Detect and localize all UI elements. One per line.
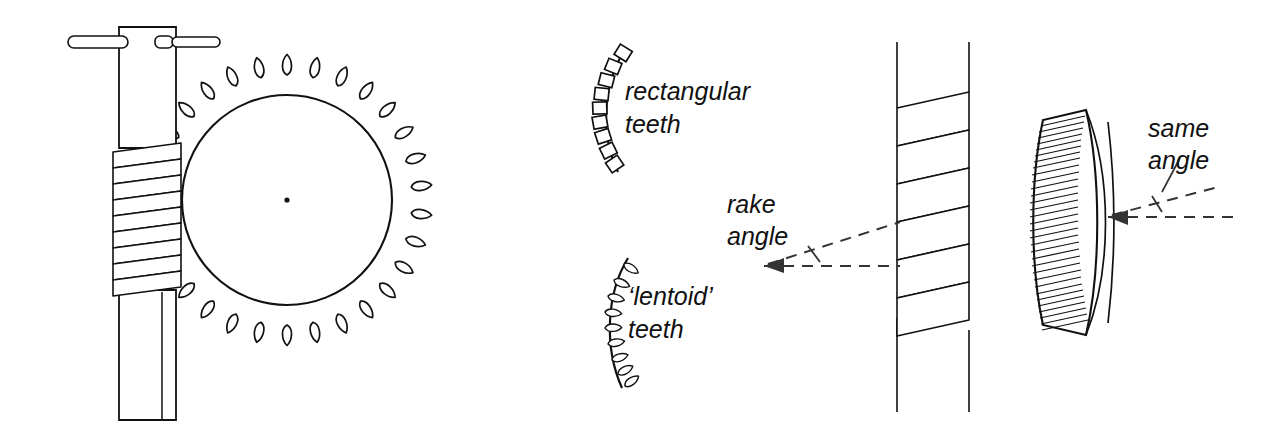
lentoid-teeth-label-line1: ‘lentoid’ <box>628 282 713 310</box>
worm-screw-flights <box>897 92 969 336</box>
rake-angle-label-line2: angle <box>727 222 788 250</box>
worm-thread-flights <box>113 143 181 296</box>
diagram-canvas: rectangular teeth ‘lentoid’ teeth <box>0 0 1264 424</box>
lentoid-teeth-label-line2: teeth <box>628 315 684 343</box>
rake-angle-label-line1: rake <box>727 190 776 218</box>
same-angle-label-line2: angle <box>1148 146 1209 174</box>
rectangular-teeth-label-line2: teeth <box>625 110 681 138</box>
rectangular-teeth-label-line1: rectangular <box>625 77 752 105</box>
same-angle-label-line1: same <box>1148 114 1209 142</box>
technical-diagram: rectangular teeth ‘lentoid’ teeth <box>0 0 1264 424</box>
worm-wheel-center-dot <box>284 197 289 202</box>
